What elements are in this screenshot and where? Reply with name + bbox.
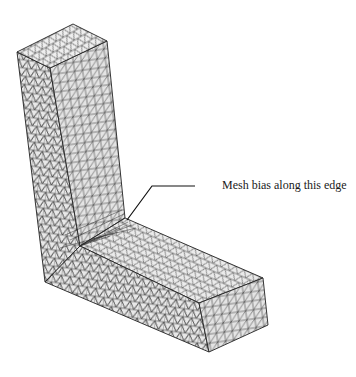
annotation-label: Mesh bias along this edge xyxy=(222,178,347,193)
annotation-leader-line xyxy=(127,186,195,220)
